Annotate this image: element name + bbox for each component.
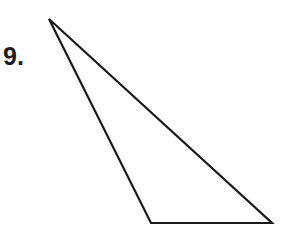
triangle xyxy=(49,19,272,223)
triangle-figure xyxy=(0,0,297,226)
